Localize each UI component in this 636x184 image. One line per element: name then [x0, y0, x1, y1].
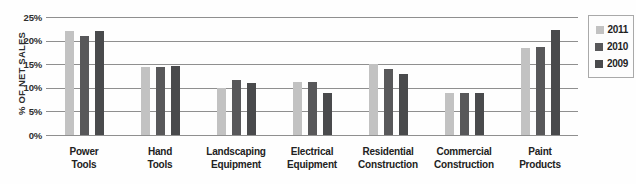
- legend: 201120102009: [588, 15, 634, 78]
- x-label-line: Commercial: [426, 146, 502, 159]
- x-label-line: Tools: [46, 159, 122, 172]
- bar-2010-power-tools: [80, 36, 89, 135]
- legend-entry-2009: 2009: [594, 58, 628, 69]
- bar-2009-hand-tools: [171, 66, 180, 135]
- y-tick-25%: 25%: [2, 12, 42, 23]
- x-label-landscaping-equipment: LandscapingEquipment: [198, 146, 274, 171]
- x-label-line: Tools: [122, 159, 198, 172]
- legend-swatch-2011: [596, 26, 604, 34]
- bar-2011-power-tools: [65, 31, 74, 135]
- bar-2009-power-tools: [95, 31, 104, 135]
- plot-area: [46, 17, 578, 135]
- y-tick-15%: 15%: [2, 59, 42, 70]
- bar-group-landscaping-equipment: [198, 17, 274, 135]
- x-label-line: Hand: [122, 146, 198, 159]
- y-tick-5%: 5%: [2, 106, 42, 117]
- legend-swatch-2010: [595, 43, 603, 51]
- y-tick-0%: 0%: [2, 130, 42, 141]
- bar-group-commercial-construction: [426, 17, 502, 135]
- bar-groups: [46, 17, 578, 135]
- bar-group-residential-construction: [350, 17, 426, 135]
- x-label-line: Electrical: [274, 146, 350, 159]
- bar-2010-landscaping-equipment: [232, 80, 241, 135]
- x-label-line: Equipment: [274, 159, 350, 172]
- bar-2011-landscaping-equipment: [217, 88, 226, 135]
- legend-label-2011: 2011: [608, 24, 629, 35]
- x-label-line: Landscaping: [198, 146, 274, 159]
- x-label-line: Power: [46, 146, 122, 159]
- x-label-commercial-construction: CommercialConstruction: [426, 146, 502, 171]
- y-tick-20%: 20%: [2, 35, 42, 46]
- gridline-0%: [46, 135, 578, 136]
- x-label-line: Equipment: [198, 159, 274, 172]
- bar-2010-hand-tools: [156, 67, 165, 135]
- x-label-line: Paint: [502, 146, 578, 159]
- bar-2010-paint-products: [536, 47, 545, 135]
- x-label-power-tools: PowerTools: [46, 146, 122, 171]
- bar-2009-landscaping-equipment: [247, 83, 256, 135]
- bar-chart: % OF NET SALES 25%20%15%10%5%0% PowerToo…: [0, 0, 636, 184]
- legend-label-2010: 2010: [607, 41, 628, 52]
- x-label-line: Construction: [350, 159, 426, 172]
- y-tick-10%: 10%: [2, 82, 42, 93]
- bar-group-paint-products: [502, 17, 578, 135]
- x-label-residential-construction: ResidentialConstruction: [350, 146, 426, 171]
- x-label-hand-tools: HandTools: [122, 146, 198, 171]
- x-label-electrical-equipment: ElectricalEquipment: [274, 146, 350, 171]
- x-label-line: Construction: [426, 159, 502, 172]
- bar-2011-residential-construction: [369, 64, 378, 135]
- bar-2010-residential-construction: [384, 69, 393, 135]
- x-label-line: Residential: [350, 146, 426, 159]
- bar-2011-paint-products: [521, 48, 530, 135]
- bar-2009-electrical-equipment: [323, 93, 332, 135]
- bar-2011-commercial-construction: [445, 93, 454, 135]
- bar-group-hand-tools: [122, 17, 198, 135]
- bar-2011-hand-tools: [141, 67, 150, 135]
- bar-2010-electrical-equipment: [308, 82, 317, 135]
- bar-group-power-tools: [46, 17, 122, 135]
- bar-group-electrical-equipment: [274, 17, 350, 135]
- bar-2009-residential-construction: [399, 74, 408, 135]
- bar-2009-commercial-construction: [475, 93, 484, 135]
- bar-2009-paint-products: [551, 30, 560, 135]
- bar-2010-commercial-construction: [460, 93, 469, 135]
- x-label-line: Products: [502, 159, 578, 172]
- legend-entry-2011: 2011: [594, 24, 628, 35]
- legend-swatch-2009: [595, 60, 603, 68]
- legend-entry-2010: 2010: [594, 41, 628, 52]
- x-label-paint-products: PaintProducts: [502, 146, 578, 171]
- bar-2011-electrical-equipment: [293, 82, 302, 135]
- legend-label-2009: 2009: [607, 58, 628, 69]
- x-axis-category-labels: PowerToolsHandToolsLandscapingEquipmentE…: [46, 146, 578, 171]
